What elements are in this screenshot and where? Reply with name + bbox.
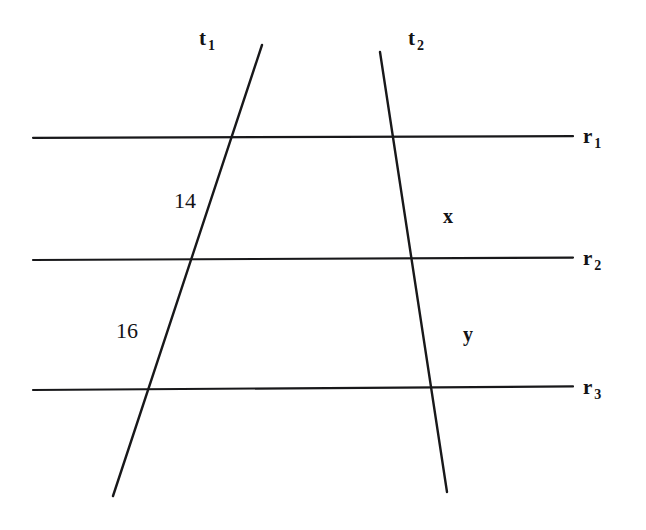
- label-line-r1-subscript: 1: [594, 136, 601, 151]
- line-r3: [33, 386, 573, 390]
- label-line-r1-base: r: [583, 124, 592, 148]
- line-t2: [380, 52, 447, 492]
- segment-label-y: y: [463, 324, 473, 344]
- figure-canvas: [0, 0, 646, 530]
- label-line-t2-base: t: [408, 26, 415, 50]
- segment-label-x: x: [443, 206, 453, 226]
- segment-label-14: 14: [174, 190, 196, 212]
- label-line-r2-subscript: 2: [594, 258, 601, 273]
- label-line-r1: r1: [583, 126, 599, 147]
- line-t1: [113, 45, 262, 496]
- label-line-t1: t1: [199, 28, 213, 49]
- label-line-t2-subscript: 2: [417, 38, 424, 53]
- label-line-r3: r3: [583, 377, 599, 398]
- label-line-r3-subscript: 3: [594, 387, 601, 402]
- label-line-t1-base: t: [199, 26, 206, 50]
- label-line-t2: t2: [408, 28, 422, 49]
- label-line-t1-subscript: 1: [208, 38, 215, 53]
- segment-label-16: 16: [116, 320, 138, 342]
- geometry-figure: r1 r2 r3 t1 t2 14 16 x y: [0, 0, 646, 530]
- label-line-r2: r2: [583, 248, 599, 269]
- label-line-r3-base: r: [583, 375, 592, 399]
- line-r1: [33, 136, 573, 138]
- line-r2: [33, 258, 573, 260]
- label-line-r2-base: r: [583, 246, 592, 270]
